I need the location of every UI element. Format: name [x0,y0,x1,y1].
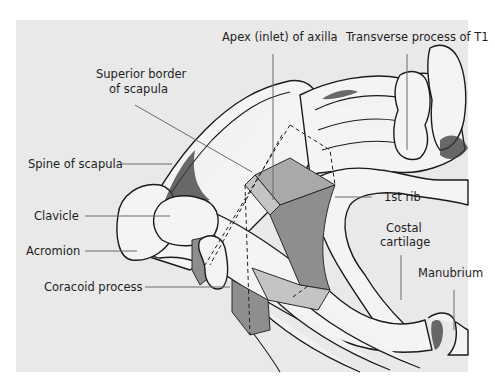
label-spine-of-scapula: Spine of scapula [28,157,123,171]
label-first-rib: 1st rib [384,190,421,204]
label-manubrium: Manubrium [418,266,483,280]
label-superior-border-1: Superior border [96,67,187,81]
label-superior-border-2: of scapula [109,82,168,96]
label-costal-2: cartilage [380,235,430,249]
label-clavicle: Clavicle [34,209,79,223]
label-transverse-process: Transverse process of T1 [345,30,489,44]
label-apex: Apex (inlet) of axilla [222,30,338,44]
vertebra-process [428,45,466,150]
label-acromion: Acromion [26,244,80,258]
shoulder-axilla-diagram: Apex (inlet) of axilla Transverse proces… [0,0,495,385]
vertebra-T1 [394,72,430,160]
label-costal-1: Costal [386,221,422,235]
label-coracoid-process: Coracoid process [44,280,143,294]
